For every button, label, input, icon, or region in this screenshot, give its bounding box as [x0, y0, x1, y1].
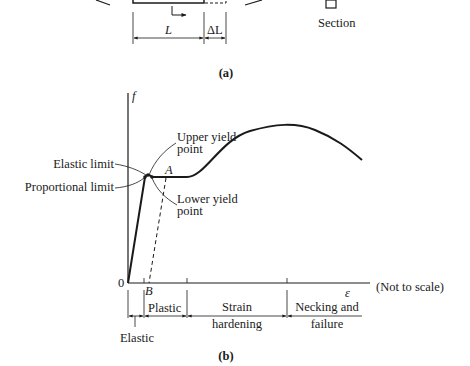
force-arrow-left-icon: [96, 0, 110, 5]
proportional-limit-label: Proportional limit: [25, 180, 115, 194]
elastic-label: Elastic: [120, 331, 154, 345]
lower-yield-label-line2: point: [177, 204, 203, 218]
stress-strain-figure: L ΔL Section (a) f ε 0 (Not to scale): [0, 0, 470, 366]
strain-hardening-label-line1: Strain: [222, 300, 253, 314]
bar-outline: [133, 0, 204, 3]
length-label: L: [164, 23, 172, 37]
stress-strain-curve: [128, 125, 362, 283]
upper-yield-label-line2: point: [177, 142, 203, 156]
figure-b: f ε 0 (Not to scale) Upper yield point L…: [25, 89, 444, 363]
point-b-label: B: [145, 284, 153, 298]
origin-label: 0: [118, 276, 124, 290]
lower-yield-leader: [152, 178, 177, 205]
strain-hardening-label-line2: hardening: [212, 317, 263, 331]
elongation-dashed: [205, 0, 226, 3]
necking-label-line2: failure: [311, 317, 344, 331]
elastic-limit-leader: [115, 164, 146, 175]
x-axis-label: ε: [345, 286, 350, 300]
necking-label-line1: Necking and: [295, 300, 359, 314]
section-cut-arrow-icon: [172, 6, 186, 15]
y-axis-label: f: [132, 89, 137, 103]
unloading-line: [149, 178, 166, 283]
proportional-limit-leader: [115, 178, 144, 188]
section-label: Section: [318, 16, 356, 30]
elastic-limit-label: Elastic limit: [53, 157, 114, 171]
figure-a: L ΔL Section (a): [96, 0, 356, 80]
not-to-scale-note: (Not to scale): [376, 280, 444, 294]
force-arrow-right-icon: [245, 0, 262, 5]
elongation-label: ΔL: [207, 23, 223, 37]
section-square-icon: [326, 0, 336, 8]
caption-b: (b): [218, 349, 233, 363]
plastic-label: Plastic: [148, 301, 182, 315]
point-a-label: A: [164, 163, 173, 177]
caption-a: (a): [219, 66, 234, 80]
